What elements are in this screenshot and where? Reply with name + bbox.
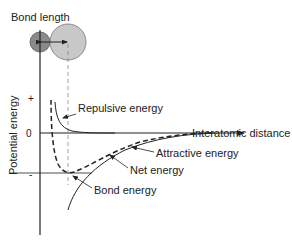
repulsive-pointer — [63, 114, 76, 118]
attractive-pointer — [132, 147, 154, 152]
y-tick-zero: 0 — [26, 128, 32, 139]
net-energy-label: Net energy — [130, 164, 184, 176]
y-axis-label: Potential energy — [7, 95, 19, 175]
bond-energy-label: Bond energy — [94, 184, 157, 196]
attractive-energy-label: Attractive energy — [156, 147, 239, 159]
y-tick-plus: + — [28, 93, 34, 104]
net-pointer — [110, 155, 128, 168]
repulsive-energy-label: Repulsive energy — [78, 102, 163, 114]
bond-length-title: Bond length — [11, 11, 70, 23]
bond-energy-pointer — [73, 176, 92, 188]
y-tick-minus: - — [29, 169, 32, 180]
potential-energy-diagram: Bond length + 0 - Potential energy Inter… — [0, 0, 292, 245]
